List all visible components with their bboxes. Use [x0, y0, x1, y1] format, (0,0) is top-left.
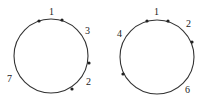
dot [166, 19, 169, 22]
left-circle [14, 19, 88, 93]
dot [60, 18, 63, 21]
arc-label: 1 [154, 6, 159, 17]
dot [37, 19, 40, 22]
circle-diagrams: 1 3 2 7 1 2 4 6 [0, 0, 205, 101]
dot [87, 61, 90, 64]
dot [121, 72, 124, 75]
arc-label: 6 [185, 84, 190, 95]
arc-label: 1 [49, 6, 54, 17]
arc-label: 3 [85, 25, 90, 36]
arc-label: 7 [7, 73, 12, 84]
right-circle-diagram: 1 2 4 6 [117, 6, 194, 95]
dot [70, 87, 73, 90]
dot [145, 19, 148, 22]
dot [190, 40, 193, 43]
arc-label: 2 [86, 76, 91, 87]
left-circle-diagram: 1 3 2 7 [7, 6, 91, 93]
arc-label: 2 [186, 18, 191, 29]
right-circle [120, 20, 194, 94]
arc-label: 4 [117, 28, 122, 39]
